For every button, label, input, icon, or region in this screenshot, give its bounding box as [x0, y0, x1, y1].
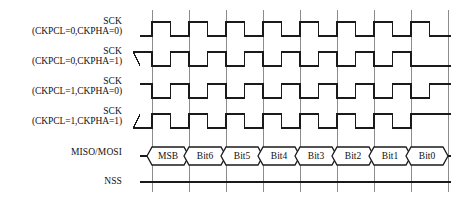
waveform-area: MSBBit6Bit5Bit4Bit3Bit2Bit1Bit0: [128, 0, 463, 200]
signal-label-column: SCK (CKPCL=0,CKPHA=0) SCK (CKPCL=0,CKPHA…: [0, 0, 128, 200]
row-label-nss: NSS: [104, 176, 122, 186]
row-label-sck-cpol0-cpha1: SCK (CKPCL=0,CKPHA=1): [32, 46, 122, 67]
waveform-miso-mosi: [140, 147, 451, 165]
data-bit-label: Bit2: [345, 151, 362, 161]
row-label-miso-mosi: MISO/MOSI: [71, 147, 122, 157]
data-bit-label: Bit0: [419, 151, 436, 161]
row-label-line1: SCK: [32, 16, 122, 26]
row-label-line1: SCK: [32, 106, 122, 116]
data-bit-label: Bit5: [234, 151, 251, 161]
data-bit-label: Bit3: [308, 151, 325, 161]
row-label-line2: (CKPCL=0,CKPHA=0): [32, 26, 122, 36]
row-label-line1: MISO/MOSI: [71, 147, 122, 157]
data-bit-label: MSB: [158, 151, 178, 161]
waveform-sck-cpol1-cpha0: [140, 84, 451, 98]
data-bit-label: Bit1: [382, 151, 399, 161]
waveform-sck-cpol1-cpha1: [134, 114, 452, 128]
data-bit-label: Bit4: [271, 151, 288, 161]
waveform-sck-cpol0-cpha1: [134, 52, 452, 66]
row-label-sck-cpol1-cpha0: SCK (CKPCL=1,CKPHA=0): [32, 76, 122, 97]
row-label-line2: (CKPCL=0,CKPHA=1): [32, 56, 122, 66]
row-label-line2: (CKPCL=1,CKPHA=1): [32, 116, 122, 126]
waveform-sck-cpol0-cpha0: [140, 22, 451, 36]
row-label-line1: SCK: [32, 46, 122, 56]
row-label-sck-cpol0-cpha0: SCK (CKPCL=0,CKPHA=0): [32, 16, 122, 37]
row-label-line1: SCK: [32, 76, 122, 86]
row-label-sck-cpol1-cpha1: SCK (CKPCL=1,CKPHA=1): [32, 106, 122, 127]
row-label-line1: NSS: [104, 176, 122, 186]
data-bit-label: Bit6: [197, 151, 214, 161]
spi-timing-diagram: SCK (CKPCL=0,CKPHA=0) SCK (CKPCL=0,CKPHA…: [0, 0, 463, 200]
row-label-line2: (CKPCL=1,CKPHA=0): [32, 86, 122, 96]
waveform-svg: MSBBit6Bit5Bit4Bit3Bit2Bit1Bit0: [128, 0, 463, 200]
